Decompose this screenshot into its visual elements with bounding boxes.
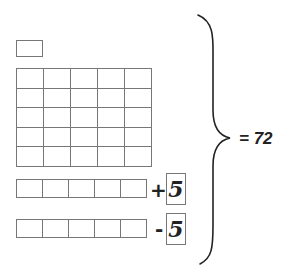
result-text: = 72 <box>239 129 273 149</box>
